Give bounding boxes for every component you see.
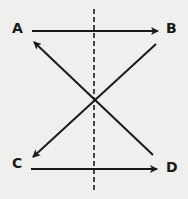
node-label-a: A <box>12 20 23 36</box>
node-label-b: B <box>166 20 177 36</box>
node-label-c: C <box>12 155 22 171</box>
node-label-d: D <box>166 159 178 175</box>
diagram-canvas: A B C D <box>0 0 188 199</box>
